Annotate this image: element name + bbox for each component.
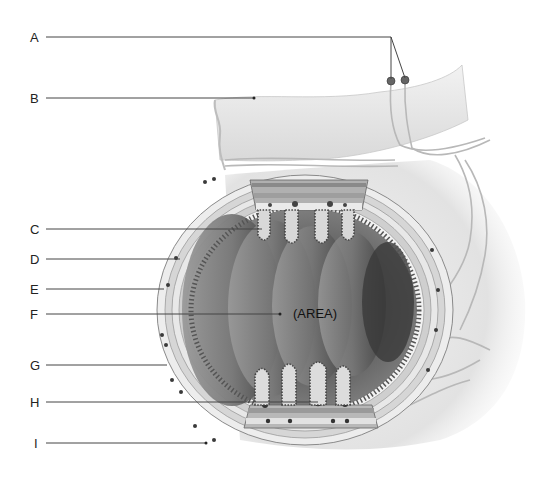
label-F: F — [30, 308, 38, 321]
intestine-illustration — [0, 0, 551, 493]
label-G: G — [30, 359, 40, 372]
label-D: D — [30, 253, 39, 266]
label-H: H — [30, 396, 39, 409]
vessel-nodes — [387, 76, 409, 85]
label-E: E — [30, 283, 39, 296]
diagram-stage: A B C D E F G H I (AREA) — [0, 0, 551, 493]
area-label: (AREA) — [293, 307, 337, 320]
label-A: A — [30, 31, 39, 44]
label-B: B — [30, 92, 39, 105]
label-C: C — [30, 223, 39, 236]
label-I: I — [34, 437, 38, 450]
